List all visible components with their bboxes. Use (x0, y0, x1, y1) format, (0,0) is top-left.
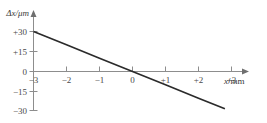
x-tick-label--3: −3 (29, 75, 39, 85)
y-tick-label--15: −15 (13, 87, 28, 97)
y-tick-label--30: −30 (13, 106, 28, 116)
x-axis-title-unit: /mm (228, 76, 245, 86)
y-tick-label-30: +30 (13, 27, 28, 37)
x-tick-label--1: −1 (95, 75, 105, 85)
x-tick-label-2: +2 (194, 75, 204, 85)
chart-figure: −3 −2 −1 0 +1 +2 +3 +30 +15 0 −15 −30 Δx… (0, 0, 267, 123)
x-axis-title: x/mm (223, 76, 245, 86)
x-axis-arrow-icon (242, 69, 249, 75)
y-tick-label-0: 0 (23, 67, 28, 77)
y-axis-title: Δx/μm (5, 8, 29, 18)
line-chart: −3 −2 −1 0 +1 +2 +3 +30 +15 0 −15 −30 Δx… (0, 0, 267, 123)
y-tick-label-15: +15 (13, 47, 28, 57)
x-tick-label-0: 0 (130, 75, 135, 85)
x-tick-label--2: −2 (62, 75, 72, 85)
y-axis-arrow-icon (31, 10, 37, 17)
data-series-line (34, 32, 225, 109)
